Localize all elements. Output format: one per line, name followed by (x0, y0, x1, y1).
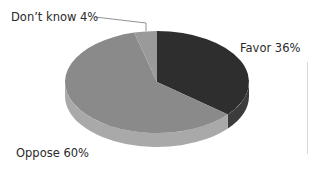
label-oppose: Oppose 60% (16, 146, 89, 160)
pie-tops (65, 31, 249, 133)
leader-line-dont-know-h (95, 17, 146, 23)
label-favor: Favor 36% (240, 41, 300, 55)
pie-chart: Don’t know 4% Favor 36% Oppose 60% (0, 0, 310, 171)
label-dont-know: Don’t know 4% (11, 10, 98, 24)
